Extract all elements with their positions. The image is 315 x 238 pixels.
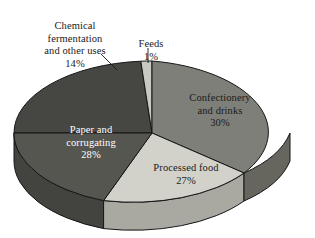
pie-label-feeds-percent: 1% — [120, 51, 182, 63]
pie-label-processed-food: Processed food 27% — [134, 150, 238, 200]
pie-label-chemical-text: Chemical fermentation and other uses — [44, 20, 105, 56]
pie-label-chemical: Chemical fermentation and other uses 14% — [16, 8, 134, 82]
pie-label-paper-percent: 28% — [42, 149, 140, 161]
pie-label-paper: Paper and corrugating 28% — [42, 112, 140, 174]
pie-label-confectionery-text: Confectionery and drinks — [189, 92, 250, 115]
pie-label-confectionery: Confectionery and drinks 30% — [168, 80, 272, 142]
pie-label-feeds-text: Feeds — [139, 38, 164, 49]
pie-label-processed-food-text: Processed food — [153, 162, 218, 173]
pie-label-chemical-percent: 14% — [16, 58, 134, 70]
pie-label-paper-text: Paper and corrugating — [66, 124, 116, 147]
pie-chart-figure: Chemical fermentation and other uses 14%… — [0, 0, 315, 238]
pie-label-confectionery-percent: 30% — [168, 117, 272, 129]
pie-label-processed-food-percent: 27% — [134, 175, 238, 187]
pie-label-feeds: Feeds 1% — [120, 26, 182, 76]
